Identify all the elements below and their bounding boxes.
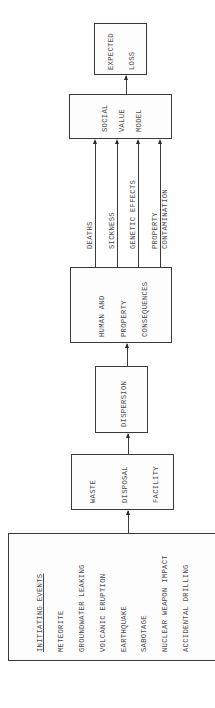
human-consequences-label-line-1: HUMAN AND	[99, 295, 106, 337]
initiating-event-item: GROUNDWATER LEAKING	[79, 564, 86, 652]
waste-facility-label-line-2: DISPOSAL	[122, 466, 129, 503]
arrowhead-icon	[136, 139, 140, 144]
initiating-event-item: NUCLEAR WEAPON IMPACT	[162, 555, 169, 652]
expected-loss-label-line-2: LOSS	[129, 52, 136, 70]
initiating-events-title: INITIATING EVENTS	[37, 574, 44, 652]
initiating-event-item: ACCIDENTAL DRILLING	[183, 564, 190, 652]
arrow-label-contamination: CONTAMINATION	[162, 189, 169, 249]
arrow-sickness	[117, 141, 118, 268]
waste-facility-label-line-3: FACILITY	[153, 466, 160, 503]
arrow-label-sickness: SICKNESS	[109, 212, 116, 249]
arrow-genetic-effects	[138, 141, 139, 268]
social-value-model-label-line-1: SOCIAL	[102, 104, 109, 132]
human-consequences-label-line-2: PROPERTY	[121, 300, 128, 337]
initiating-event-item: METEORITE	[58, 610, 65, 652]
dispersion-label: DISPERSION	[121, 381, 128, 427]
expected-loss-label-line-1: EXPECTED	[108, 33, 115, 70]
arrowhead-icon	[93, 139, 97, 144]
initiating-event-item: VOLCANIC ERUPTION	[100, 574, 107, 652]
arrow-label-property: PROPERTY	[152, 212, 159, 249]
arrowhead-icon	[126, 433, 130, 438]
arrowhead-icon	[158, 139, 162, 144]
initiating-event-item: EARTHQUAKE	[121, 606, 128, 652]
arrowhead-icon	[125, 343, 129, 348]
arrowhead-icon	[115, 139, 119, 144]
arrowhead-icon	[126, 510, 130, 515]
expected-loss-box	[94, 23, 147, 75]
waste-facility-label-line-1: WASTE	[90, 480, 97, 503]
social-value-model-label-line-3: MODEL	[136, 109, 143, 132]
arrowhead-icon	[124, 75, 128, 80]
social-value-model-label-line-2: VALUE	[119, 109, 126, 132]
arrow-deaths	[95, 141, 96, 268]
initiating-event-item: SABOTAGE	[141, 615, 148, 652]
human-consequences-label-line-3: CONSEQUENCES	[142, 282, 149, 337]
arrow-label-deaths: DEATHS	[87, 221, 94, 249]
arrow-label-genetic-effects: GENETIC EFFECTS	[130, 180, 137, 249]
